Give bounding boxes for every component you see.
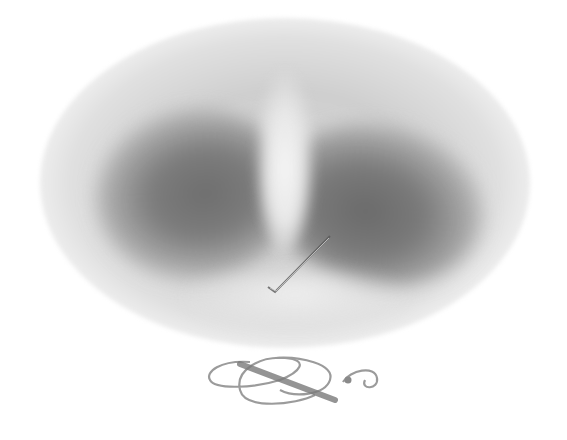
decorative-flourish-icon	[205, 350, 385, 420]
